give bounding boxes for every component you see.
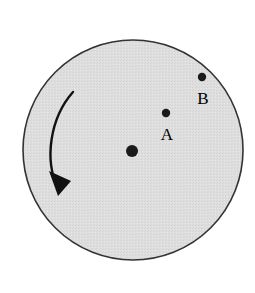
point-a-dot — [162, 109, 170, 117]
point-b-label: B — [197, 89, 208, 108]
rotating-disk-figure: A B — [0, 0, 255, 293]
rotation-axis-center-dot — [126, 145, 138, 157]
diagram-canvas: A B — [0, 0, 255, 293]
point-a-label: A — [161, 125, 174, 144]
point-b-dot — [198, 73, 206, 81]
